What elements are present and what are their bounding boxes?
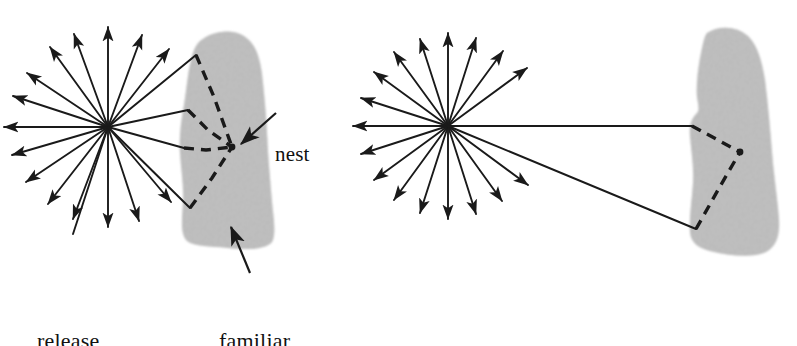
ray	[448, 126, 528, 185]
ray	[108, 127, 171, 202]
familiar-territory-blob-left	[180, 31, 275, 249]
ray	[26, 127, 108, 182]
ray	[448, 68, 527, 126]
nest-label-text: nest	[275, 142, 310, 167]
familiar-territory-label-line1: familiar	[219, 328, 293, 346]
ray	[48, 127, 108, 204]
ray	[420, 39, 448, 126]
figure-root: nest release point familiar territory	[0, 0, 797, 346]
nest-marker-left	[229, 144, 236, 151]
familiar-territory-label: familiar territory	[219, 276, 293, 346]
left-release-rays	[4, 27, 171, 234]
homing-diagram-svg	[0, 0, 797, 346]
nest-marker-right	[737, 149, 744, 156]
release-point-label: release point	[37, 276, 99, 346]
ray	[448, 51, 503, 126]
ray	[374, 72, 448, 126]
ray	[50, 47, 108, 127]
ray	[12, 127, 108, 155]
ray	[13, 96, 108, 127]
ray	[27, 73, 108, 127]
ray	[361, 126, 448, 154]
ray	[420, 126, 448, 213]
ray	[394, 126, 448, 200]
nest-label: nest	[275, 92, 310, 216]
ray	[74, 34, 108, 127]
ray	[374, 126, 448, 180]
release-point-label-line1: release	[37, 328, 99, 346]
right-panel	[353, 28, 779, 256]
ray	[448, 38, 476, 126]
ray	[448, 126, 476, 214]
ray	[394, 52, 448, 126]
familiar-territory-blob-right	[690, 28, 779, 256]
ray-no-head	[73, 127, 108, 234]
left-panel	[4, 27, 276, 273]
ray	[361, 98, 448, 126]
